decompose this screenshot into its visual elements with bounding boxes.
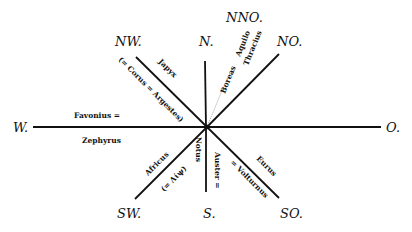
wind-japyx: Japyx (156, 56, 179, 79)
label-north: N. (198, 34, 214, 49)
label-northwest: NW. (114, 34, 142, 49)
center-point (205, 125, 210, 130)
label-southeast: SO. (280, 206, 303, 221)
label-west: W. (13, 120, 28, 135)
wind-boreas: Boreas (219, 64, 238, 94)
label-southwest: SW. (117, 206, 141, 221)
wind-notus: Notus (194, 137, 203, 162)
ray-north (205, 61, 206, 127)
label-north-northeast: NNO. (225, 10, 263, 25)
wind-rose-diagram: N. NNO. NO. O. SO. S. SW. W. NW. Japyx (… (0, 0, 412, 232)
label-south: S. (203, 206, 216, 221)
wind-auster: Auster = (213, 151, 222, 189)
label-east: O. (386, 120, 400, 135)
wind-corus-argestes: (= Corus = Argestes) (117, 55, 186, 124)
wind-africus: Africus (142, 150, 170, 178)
wind-favonius: Favonius = (74, 111, 120, 120)
wind-lips: (= Λίψ) (159, 164, 188, 193)
label-northeast: NO. (276, 34, 302, 49)
wind-eurus: Eurus (255, 154, 279, 178)
wind-zephyrus: Zephyrus (82, 136, 121, 145)
